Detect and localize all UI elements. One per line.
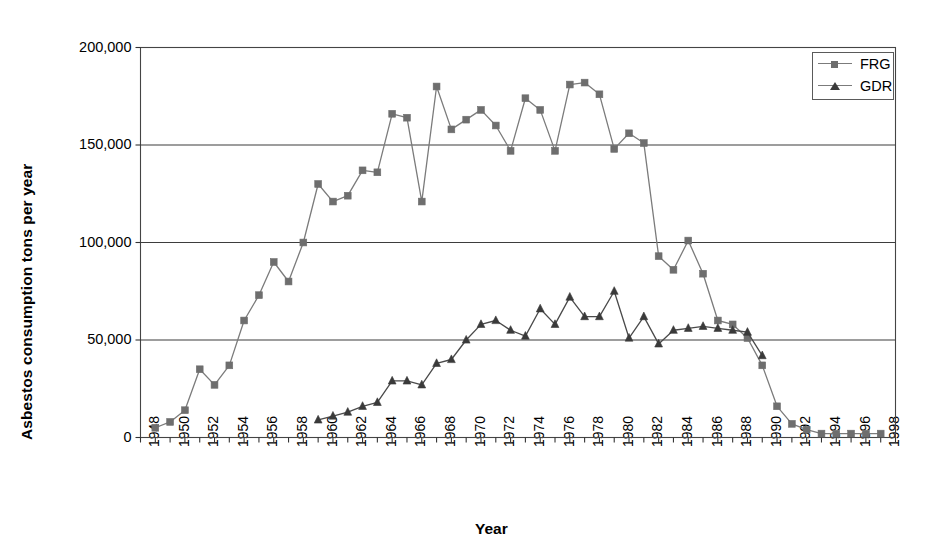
marker-frg — [670, 266, 677, 273]
marker-frg — [478, 107, 485, 114]
marker-frg — [581, 79, 588, 86]
marker-frg — [344, 192, 351, 199]
marker-frg — [507, 147, 514, 154]
marker-frg — [167, 419, 174, 426]
legend-item-gdr: GDR — [813, 75, 893, 97]
plot-area — [0, 0, 926, 547]
marker-frg — [877, 430, 884, 437]
marker-frg — [152, 424, 159, 431]
marker-frg — [330, 198, 337, 205]
marker-frg — [404, 114, 411, 121]
marker-frg — [522, 95, 529, 102]
marker-frg — [300, 239, 307, 246]
marker-frg — [256, 292, 263, 299]
marker-gdr — [388, 376, 396, 384]
series-line-frg — [155, 83, 880, 434]
marker-frg — [448, 126, 455, 133]
marker-gdr — [640, 312, 648, 320]
marker-frg — [596, 91, 603, 98]
marker-gdr — [403, 376, 411, 384]
marker-frg — [463, 116, 470, 123]
marker-frg — [418, 198, 425, 205]
marker-gdr — [699, 322, 707, 330]
legend-label-gdr: GDR — [860, 78, 892, 94]
marker-frg — [714, 317, 721, 324]
frg-marker-icon — [818, 58, 852, 70]
marker-frg — [211, 381, 218, 388]
marker-frg — [270, 259, 277, 266]
legend-item-frg: FRG — [813, 53, 893, 75]
marker-frg — [389, 110, 396, 117]
marker-frg — [833, 430, 840, 437]
gdr-marker-icon — [818, 80, 852, 92]
marker-frg — [241, 317, 248, 324]
marker-frg — [374, 169, 381, 176]
marker-gdr — [536, 304, 544, 312]
marker-frg — [359, 167, 366, 174]
marker-frg — [566, 81, 573, 88]
marker-gdr — [566, 293, 574, 301]
chart-canvas: Asbestos consumption tons per year Year … — [0, 0, 926, 547]
marker-frg — [818, 430, 825, 437]
marker-frg — [537, 107, 544, 114]
marker-gdr — [492, 316, 500, 324]
marker-frg — [433, 83, 440, 90]
marker-gdr — [507, 326, 515, 334]
marker-frg — [862, 430, 869, 437]
marker-frg — [285, 278, 292, 285]
marker-frg — [640, 140, 647, 147]
marker-frg — [803, 426, 810, 433]
marker-frg — [552, 147, 559, 154]
legend-label-frg: FRG — [860, 56, 891, 72]
marker-frg — [626, 130, 633, 137]
marker-frg — [759, 362, 766, 369]
marker-frg — [700, 270, 707, 277]
marker-frg — [655, 253, 662, 260]
chart-legend: FRG GDR — [812, 52, 894, 100]
marker-frg — [182, 407, 189, 414]
marker-frg — [788, 420, 795, 427]
marker-frg — [196, 366, 203, 373]
marker-frg — [774, 403, 781, 410]
marker-frg — [315, 181, 322, 188]
marker-gdr — [610, 287, 618, 295]
marker-frg — [611, 146, 618, 153]
marker-frg — [848, 430, 855, 437]
marker-frg — [492, 122, 499, 129]
marker-frg — [226, 362, 233, 369]
marker-frg — [685, 237, 692, 244]
